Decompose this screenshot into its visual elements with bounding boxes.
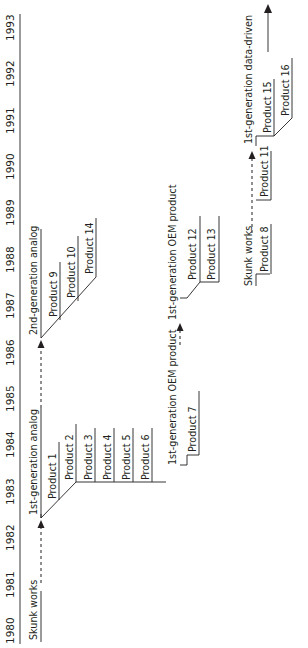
arrow-right-icon	[264, 4, 272, 13]
year-1984: 1984	[4, 431, 16, 458]
product-3: Product 3	[83, 434, 94, 480]
product-10: Product 10	[66, 246, 77, 298]
product-14: Product 14	[84, 222, 95, 274]
arrow-right-icon	[38, 340, 45, 348]
arrow-right-icon	[249, 151, 256, 159]
data-driven-track: Skunk works Product 8 Product 11 1st-gen…	[243, 4, 292, 286]
gen1-dd-branch	[274, 118, 292, 136]
gen1-oem-label-b: 1st-generation OEM product	[167, 184, 178, 320]
product-7: Product 7	[187, 406, 198, 452]
skunk-works-2-label: Skunk works	[243, 226, 254, 286]
product-15: Product 15	[262, 81, 273, 133]
product-4: Product 4	[102, 434, 113, 480]
year-1985: 1985	[4, 385, 16, 412]
year-1981: 1981	[4, 571, 16, 598]
product-timeline-diagram: 1980 1981 1982 1983 1984 1985 1986 1987 …	[0, 0, 308, 648]
year-1989: 1989	[4, 199, 16, 226]
product-6: Product 6	[140, 434, 151, 480]
product-9: Product 9	[48, 271, 59, 317]
year-1990: 1990	[4, 153, 16, 180]
product-8: Product 8	[259, 226, 270, 272]
product-5: Product 5	[121, 434, 132, 480]
oem-track: 1st-generation OEM product Product 7 1st…	[167, 184, 219, 465]
arrow-right-icon	[38, 520, 45, 528]
year-1982: 1982	[4, 524, 16, 551]
gen1-data-driven-label: 1st-generation data-driven	[243, 15, 254, 144]
year-1988: 1988	[4, 246, 16, 273]
year-1992: 1992	[4, 60, 16, 87]
year-1983: 1983	[4, 478, 16, 505]
gen1-oem-b-branch	[187, 282, 200, 298]
gen1-oem-label-a: 1st-generation OEM product	[167, 329, 178, 465]
gen1-analog-label: 1st-generation analog	[28, 409, 39, 515]
year-1993: 1993	[4, 14, 16, 41]
year-1980: 1980	[4, 617, 16, 644]
timeline-svg: 1980 1981 1982 1983 1984 1985 1986 1987 …	[0, 0, 308, 648]
rotated-canvas: 1980 1981 1982 1983 1984 1985 1986 1987 …	[4, 4, 292, 644]
arrow-right-icon	[177, 323, 184, 331]
product-1: Product 1	[47, 453, 58, 499]
analog-track: Skunk works 1st-generation analog Produc…	[28, 218, 166, 642]
product-13: Product 13	[206, 228, 217, 280]
year-1991: 1991	[4, 107, 16, 134]
product-2: Product 2	[64, 434, 75, 480]
gen2-analog-label: 2nd-generation analog	[28, 226, 39, 335]
product-12: Product 12	[187, 228, 198, 280]
year-1987: 1987	[4, 292, 16, 319]
product-16: Product 16	[280, 64, 291, 116]
year-axis: 1980 1981 1982 1983 1984 1985 1986 1987 …	[4, 14, 20, 644]
product-11: Product 11	[259, 145, 270, 197]
year-1986: 1986	[4, 339, 16, 366]
skunk-works-label: Skunk works	[28, 580, 39, 640]
